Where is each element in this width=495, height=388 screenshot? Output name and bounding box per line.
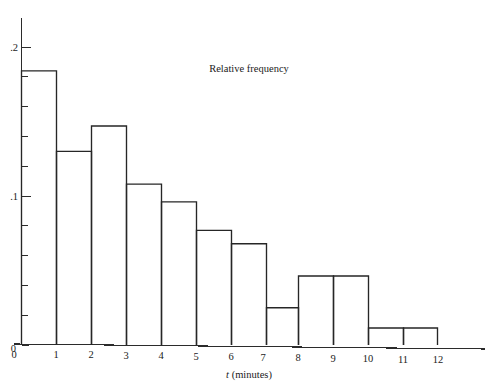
histogram-bar-0 — [22, 71, 57, 345]
x-tick-label-5: 5 — [193, 351, 198, 362]
histogram-bar-6 — [232, 244, 267, 345]
histogram-bar-3 — [127, 184, 162, 345]
x-tick-label-7: 7 — [260, 352, 265, 363]
histogram-bar-11 — [404, 328, 438, 345]
x-tick-label-8: 8 — [295, 352, 300, 363]
histogram-bar-2 — [92, 126, 127, 345]
chart-title: Relative frequency — [209, 63, 289, 74]
x-tick-label-9: 9 — [330, 353, 335, 364]
histogram-bar-10 — [369, 328, 404, 345]
x-tick-label-0: 0 — [11, 349, 16, 360]
x-tick-label-2: 2 — [88, 349, 93, 360]
histogram-bar-5 — [197, 230, 232, 345]
histogram-bar-7 — [267, 308, 299, 345]
x-axis-title: t (minutes) — [226, 369, 272, 381]
x-tick-label-1: 1 — [53, 349, 58, 360]
y-tick-label-2: .2 — [10, 42, 18, 53]
x-tick-label-4: 4 — [158, 350, 164, 361]
x-tick-label-12: 12 — [433, 354, 444, 365]
histogram-bar-9 — [334, 276, 369, 345]
y-tick-label-1: .1 — [10, 191, 18, 202]
histogram-bars — [22, 71, 438, 345]
x-tick-label-3: 3 — [123, 350, 128, 361]
histogram-bar-4 — [162, 202, 197, 345]
x-axis-line — [14, 344, 485, 349]
x-tick-label-10: 10 — [363, 353, 374, 364]
histogram-bar-1 — [57, 151, 92, 345]
x-axis-tick-labels: 0 1 2 3 4 5 6 7 8 9 10 11 12 — [11, 349, 443, 365]
histogram-bar-8 — [299, 276, 334, 345]
x-tick-label-11: 11 — [398, 354, 408, 365]
x-tick-label-6: 6 — [228, 351, 233, 362]
y-axis-ticks — [22, 47, 32, 345]
x-axis-title-units: (minutes) — [229, 369, 272, 381]
histogram-figure: 0 .1 .2 0 1 2 3 4 5 6 7 8 9 10 11 12 — [0, 0, 495, 388]
histogram-plot: 0 .1 .2 0 1 2 3 4 5 6 7 8 9 10 11 12 — [0, 0, 495, 388]
